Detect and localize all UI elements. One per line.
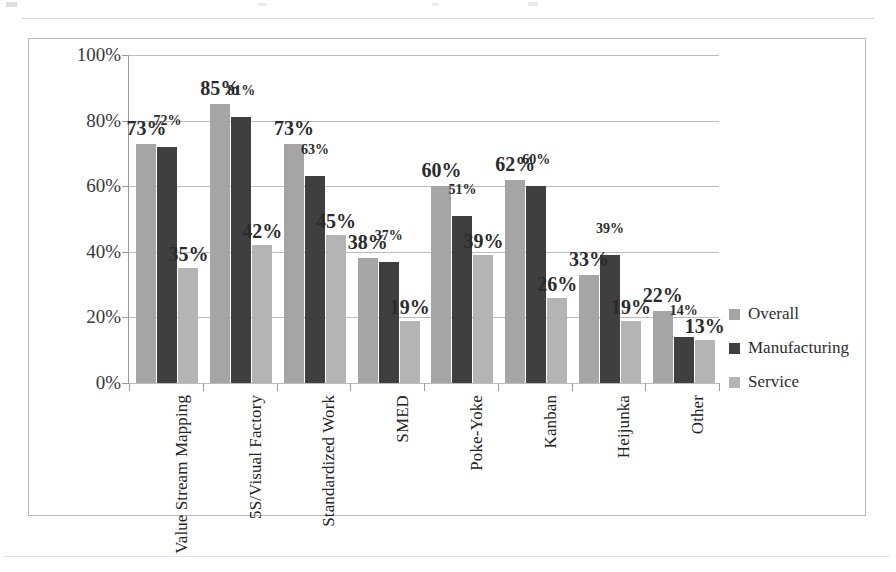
y-tick-label: 40% [35,241,121,263]
x-tick-label: Poke-Yoke [467,395,487,471]
x-tick-mark [572,383,573,391]
legend-swatch-icon [729,309,740,320]
x-tick-mark [350,383,351,391]
y-tick-label: 20% [35,306,121,328]
page-rule-bottom [4,556,890,557]
legend-item-manufacturing[interactable]: Manufacturing [729,331,879,365]
x-tick-label: SMED [393,395,413,443]
y-axis-line [128,55,129,383]
data-label: 26% [537,273,577,296]
bar-manufacturing[interactable] [231,117,251,383]
x-tick-label: Heijunka [614,395,634,458]
data-label: 35% [168,243,208,266]
x-tick-label: Kanban [541,395,561,448]
bar-service[interactable] [400,321,420,383]
data-label: 37% [375,228,403,244]
bar-overall[interactable] [505,180,525,383]
y-tick-mark [122,252,129,253]
legend-item-service[interactable]: Service [729,365,879,399]
bar-overall[interactable] [136,144,156,383]
scan-speck [258,3,267,6]
bar-group [210,55,273,383]
x-tick-mark [203,383,204,391]
data-label: 13% [685,315,725,338]
bar-manufacturing[interactable] [379,262,399,383]
data-label: 73% [274,117,314,140]
scan-speck [528,2,538,6]
y-tick-label: 60% [35,175,121,197]
chart-frame: 0%20%40%60%80%100% 73%72%35%85%81%42%73%… [28,38,866,516]
data-label: 39% [596,221,624,237]
data-label: 42% [242,220,282,243]
x-tick-mark [498,383,499,391]
bar-manufacturing[interactable] [674,337,694,383]
y-tick-mark [122,55,129,56]
bar-service[interactable] [473,255,493,383]
data-label: 63% [301,142,329,158]
data-label: 39% [463,230,503,253]
legend-item-overall[interactable]: Overall [729,297,879,331]
y-tick-label: 100% [35,44,121,66]
legend-swatch-icon [729,377,740,388]
x-tick-label: Value Stream Mapping [172,395,192,554]
plot-area: 73%72%35%85%81%42%73%63%45%38%37%19%60%5… [129,55,719,383]
bar-group [431,55,494,383]
bar-service[interactable] [252,245,272,383]
bar-group [579,55,642,383]
x-axis-labels: Value Stream Mapping5S/Visual FactorySta… [129,391,719,519]
y-tick-mark [122,317,129,318]
x-tick-label: 5S/Visual Factory [246,395,266,519]
y-tick-mark [122,186,129,187]
legend-label: Service [748,372,799,392]
bar-overall[interactable] [210,104,230,383]
x-tick-label: Standardized Work [319,395,339,527]
bar-overall[interactable] [284,144,304,383]
x-tick-mark [129,383,130,391]
bar-manufacturing[interactable] [600,255,620,383]
bar-overall[interactable] [358,258,378,383]
bar-manufacturing[interactable] [305,176,325,383]
y-tick-label: 80% [35,110,121,132]
bar-overall[interactable] [579,275,599,383]
scan-speck [432,3,439,6]
x-tick-mark [424,383,425,391]
legend-swatch-icon [729,343,740,354]
bar-group [136,55,199,383]
bar-overall[interactable] [431,186,451,383]
bar-service[interactable] [621,321,641,383]
data-label: 33% [569,248,609,271]
data-label: 45% [316,210,356,233]
x-tick-mark [719,383,720,391]
bar-service[interactable] [178,268,198,383]
bar-service[interactable] [326,235,346,383]
bar-service[interactable] [547,298,567,383]
bar-overall[interactable] [653,311,673,383]
y-axis-labels: 0%20%40%60%80%100% [35,55,121,383]
data-label: 19% [390,296,430,319]
data-label: 60% [522,152,550,168]
x-tick-label: Other [688,395,708,434]
data-label: 51% [448,182,476,198]
legend-label: Manufacturing [748,338,849,358]
chart-legend: OverallManufacturingService [729,297,879,399]
legend-label: Overall [748,304,799,324]
y-tick-label: 0% [35,372,121,394]
bar-service[interactable] [695,340,715,383]
data-label: 81% [227,83,255,99]
bar-group [505,55,568,383]
page-rule-top [22,18,874,19]
y-tick-mark [122,383,129,384]
data-label: 60% [421,159,461,182]
data-label: 72% [153,113,181,129]
x-tick-mark [277,383,278,391]
scan-speck [6,2,17,7]
bar-group [358,55,421,383]
x-tick-mark [645,383,646,391]
